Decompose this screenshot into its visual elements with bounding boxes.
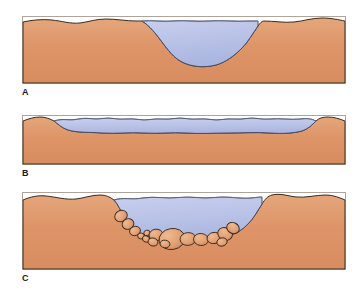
panel-label-a: A [22, 87, 29, 97]
panel-a [22, 16, 346, 84]
panel-b-illustration [22, 115, 346, 165]
panel-label-c: C [22, 273, 29, 283]
cross-section-figure: A B [0, 0, 364, 294]
water-body-b [54, 118, 316, 133]
panel-c [22, 192, 346, 270]
panel-b [22, 115, 346, 165]
panel-c-illustration [22, 192, 346, 270]
panel-label-b: B [22, 168, 29, 178]
panel-a-illustration [22, 16, 346, 84]
water-surface-line-a [143, 20, 257, 21]
